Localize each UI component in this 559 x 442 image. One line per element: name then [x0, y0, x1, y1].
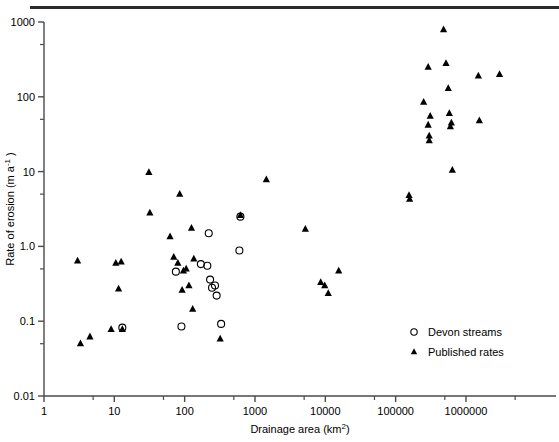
data-point-triangle: [77, 340, 84, 347]
y-axis-title: Rate of erosion (m a-1 ): [3, 152, 16, 266]
y-tick-label: 1.0: [20, 240, 35, 252]
data-point-circle: [204, 262, 211, 269]
data-point-triangle: [190, 255, 197, 262]
x-tick-label: 100: [175, 405, 193, 417]
data-point-triangle: [119, 325, 126, 332]
x-tick-label: 1: [41, 405, 47, 417]
data-point-triangle: [118, 258, 125, 265]
x-tick-label: 10000: [310, 405, 341, 417]
data-point-circle: [178, 323, 185, 330]
x-tick-label: 10: [108, 405, 120, 417]
data-point-triangle: [302, 225, 309, 232]
data-point-triangle: [176, 190, 183, 197]
data-point-triangle: [189, 305, 196, 312]
axis-layer: [38, 22, 556, 402]
data-point-triangle: [263, 176, 270, 183]
data-point-circle: [205, 230, 212, 237]
y-tick-label: 10: [23, 166, 35, 178]
x-tick-label: 1000000: [445, 405, 488, 417]
data-point-triangle: [335, 267, 342, 274]
data-point-triangle: [496, 70, 503, 77]
data-point-circle: [236, 247, 243, 254]
scatter-plot-svg: 0.010.11.0101001000110100100010000100000…: [0, 0, 559, 442]
data-point-triangle: [475, 72, 482, 79]
y-tick-label: 1000: [11, 16, 35, 28]
data-point-triangle: [442, 59, 449, 66]
axis-labels-layer: 0.010.11.0101001000110100100010000100000…: [3, 16, 487, 435]
x-axis-title: Drainage area (km2): [250, 422, 349, 435]
data-point-triangle: [166, 233, 173, 240]
y-tick-label: 100: [17, 91, 35, 103]
data-point-triangle: [440, 26, 447, 33]
data-point-triangle: [425, 121, 432, 128]
data-point-triangle: [425, 63, 432, 70]
data-point-circle: [411, 329, 417, 335]
legend-item-label: Devon streams: [428, 326, 502, 338]
data-point-triangle: [427, 112, 434, 119]
data-point-triangle: [112, 259, 119, 266]
data-point-circle: [172, 268, 179, 275]
data-point-triangle: [446, 109, 453, 116]
data-point-triangle: [86, 333, 93, 340]
data-points-layer: [74, 26, 503, 347]
data-point-triangle: [185, 281, 192, 288]
data-point-triangle: [445, 84, 452, 91]
legend-layer: Devon streamsPublished rates: [411, 326, 505, 358]
y-tick-label: 0.1: [20, 315, 35, 327]
figure-container: 0.010.11.0101001000110100100010000100000…: [0, 0, 559, 442]
data-point-triangle: [476, 117, 483, 124]
data-point-triangle: [411, 348, 417, 354]
y-axis-title-close: ): [4, 152, 16, 159]
data-point-triangle: [115, 285, 122, 292]
y-tick-label: 0.01: [14, 390, 35, 402]
data-point-triangle: [179, 286, 186, 293]
data-point-triangle: [317, 278, 324, 285]
data-point-triangle: [420, 98, 427, 105]
data-point-triangle: [174, 259, 181, 266]
data-point-triangle: [108, 325, 115, 332]
x-tick-label: 1000: [243, 405, 267, 417]
x-tick-label: 100000: [377, 405, 414, 417]
data-point-triangle: [217, 335, 224, 342]
data-point-circle: [197, 261, 204, 268]
data-point-triangle: [74, 257, 81, 264]
x-axis-title-close: ): [346, 423, 350, 435]
data-point-triangle: [449, 166, 456, 173]
data-point-triangle: [170, 253, 177, 260]
legend-item-label: Published rates: [428, 346, 504, 358]
data-point-triangle: [325, 289, 332, 296]
data-point-triangle: [188, 224, 195, 231]
data-point-triangle: [146, 209, 153, 216]
data-point-circle: [218, 320, 225, 327]
data-point-circle: [213, 292, 220, 299]
data-point-circle: [207, 276, 214, 283]
data-point-triangle: [145, 168, 152, 175]
